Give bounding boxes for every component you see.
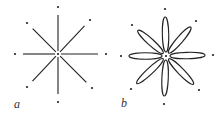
panel-b-radial-ellipses — [120, 8, 214, 105]
center-dot — [165, 55, 167, 57]
panel-a-label: a — [14, 98, 20, 110]
outer-dot — [14, 53, 16, 55]
outer-dot — [57, 101, 59, 103]
radial-ellipse — [166, 57, 195, 87]
radial-line — [60, 56, 86, 82]
radial-ellipse — [136, 28, 165, 56]
radial-ellipse — [161, 60, 169, 96]
outer-dot — [57, 6, 59, 8]
outer-dot — [195, 20, 197, 22]
outer-dot — [198, 89, 200, 91]
outer-dot — [26, 86, 28, 88]
radial-ellipse — [129, 53, 162, 59]
radial-line — [60, 26, 84, 52]
outer-dot — [212, 54, 214, 56]
radial-ellipse — [162, 17, 169, 52]
radial-line — [33, 29, 56, 52]
outer-dot — [26, 22, 28, 24]
outer-dot — [163, 103, 165, 105]
outer-dot — [130, 88, 132, 90]
outer-dot — [105, 53, 107, 55]
outer-dot — [89, 19, 91, 21]
outer-dot — [120, 55, 122, 57]
radial-line — [32, 56, 55, 81]
radial-ellipse — [166, 25, 193, 55]
outer-dot — [164, 8, 166, 10]
radial-ellipse — [135, 56, 166, 85]
diagram-canvas — [0, 0, 223, 117]
center-dot — [57, 53, 59, 55]
panel-a-radial-lines — [14, 6, 107, 103]
panel-b-label: b — [121, 97, 127, 109]
radial-ellipse — [170, 52, 205, 59]
outer-dot — [131, 24, 133, 26]
outer-dot — [91, 87, 93, 89]
